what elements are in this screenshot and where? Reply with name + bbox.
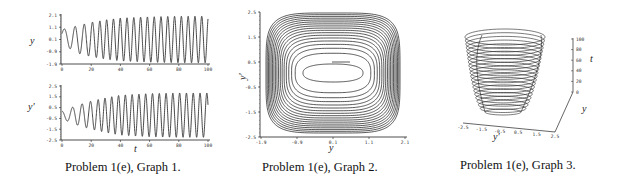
figure-canvas: y 2.11.10.1-0.9-1.9 020406080100 y′ 2.51…: [0, 0, 622, 184]
x-tick-label: 40: [118, 143, 124, 148]
y-tick-label: 1.5: [248, 35, 257, 40]
yprime-axis-label: y′: [27, 101, 35, 112]
x-tick-label: -1.9: [255, 140, 266, 145]
z-tick-label: 80: [576, 47, 582, 52]
y-tick-label: -1.5: [245, 110, 256, 115]
y-tick-label: 0.5: [49, 105, 58, 110]
graph2-caption: Problem 1(e), Graph 2.: [262, 160, 378, 175]
y-tick-label: -2.5: [245, 135, 256, 140]
x-tick-label: -1.5: [476, 127, 487, 132]
z-tick-label: 60: [576, 58, 582, 63]
3d-trajectory: [465, 29, 545, 115]
graph1-bottom-plot: y′ 2.51.50.5-0.5-1.5-2.5 020406080100 t: [27, 84, 212, 154]
y-tick-label: -0.5: [245, 85, 256, 90]
graph3-caption: Problem 1(e), Graph 3.: [460, 158, 576, 173]
x-tick-label: 0: [61, 67, 64, 72]
x-tick-label: 1.1: [365, 140, 374, 145]
x-tick-label: 80: [176, 67, 182, 72]
y-tick-label: 2.5: [49, 84, 58, 89]
x-tick-label: 2.5: [551, 134, 560, 139]
t-axis-label: t: [134, 143, 137, 154]
graph2-phase-plot: y′ 2.51.50.5-0.5-1.5-2.5 -1.9-0.90.11.12…: [237, 10, 409, 153]
y-axis-label: y: [328, 142, 334, 153]
y-tick-label: -0.9: [46, 49, 57, 54]
x-tick-label: 40: [118, 67, 124, 72]
x-tick-label: 0.5: [514, 130, 523, 135]
x-tick-label: -0.9: [291, 140, 302, 145]
x-tick-label: 1.5: [532, 132, 541, 137]
y-tick-label: 1.1: [49, 25, 58, 30]
yprime-series-line: [62, 93, 208, 137]
x-tick-label: 2.1: [401, 140, 410, 145]
y-tick-label: 2.5: [248, 10, 257, 15]
x-tick-label: 60: [147, 67, 153, 72]
z-tick-label: 0: [576, 90, 579, 95]
x-tick-label: 100: [204, 143, 213, 148]
yprime-axis-label: y′: [237, 73, 248, 81]
y-tick-label: -0.5: [46, 116, 57, 121]
t-axis-label: t: [590, 53, 593, 64]
z-tick-label: 100: [576, 37, 585, 42]
y-axis-label: y: [581, 103, 587, 114]
y-tick-label: 0.1: [49, 37, 58, 42]
graph1-top-plot: y 2.11.10.1-0.9-1.9 020406080100: [29, 13, 212, 72]
y-tick-label: -2.5: [46, 138, 57, 143]
x-tick-label: 80: [176, 143, 182, 148]
graph3-3d-plot: 020406080100 t y y′ -2.5-1.5-0.50.51.52.…: [457, 29, 593, 142]
y-tick-label: 1.5: [49, 94, 58, 99]
x-tick-label: -0.5: [494, 129, 505, 134]
y-tick-label: 0.5: [248, 60, 257, 65]
x-tick-label: 100: [204, 67, 213, 72]
x-tick-label: -2.5: [457, 125, 468, 130]
graph1-caption: Problem 1(e), Graph 1.: [65, 160, 181, 175]
x-tick-label: 20: [88, 67, 94, 72]
y-tick-label: -1.5: [46, 127, 57, 132]
z-tick-label: 20: [576, 79, 582, 84]
y-tick-label: -1.9: [46, 62, 57, 67]
y-series-line: [62, 16, 208, 63]
y-axis-label: y: [29, 35, 35, 46]
x-tick-label: 60: [147, 143, 153, 148]
phase-trajectory: [266, 13, 400, 133]
y-tick-label: 2.1: [49, 13, 58, 18]
x-tick-label: 0: [61, 143, 64, 148]
x-tick-label: 20: [88, 143, 94, 148]
z-tick-label: 40: [576, 68, 582, 73]
